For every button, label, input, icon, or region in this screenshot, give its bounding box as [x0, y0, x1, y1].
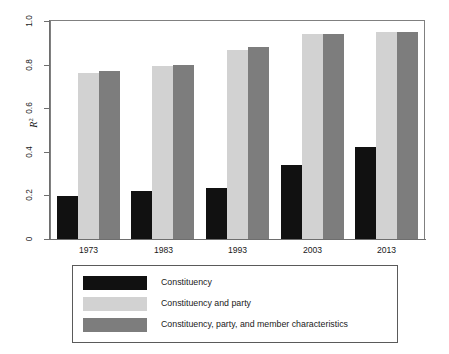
y-axis-tick — [44, 21, 49, 22]
legend-label: Constituency and party — [161, 298, 251, 308]
x-axis-tick-label: 1983 — [126, 245, 201, 255]
plot-area — [51, 21, 424, 239]
y-axis-tick-label: 0.8 — [25, 52, 35, 78]
bar — [355, 147, 376, 239]
y-axis-tick — [44, 65, 49, 66]
legend-label: Constituency — [161, 277, 212, 287]
legend-swatch — [83, 297, 147, 311]
bar — [152, 66, 173, 239]
y-axis-title-exponent: 2 — [27, 118, 34, 121]
y-axis-tick-label: 0.4 — [25, 139, 35, 165]
chart-figure: 00.20.40.60.81.0 R2 19731983199320032013… — [0, 0, 449, 354]
legend-label: Constituency, party, and member characte… — [161, 319, 348, 329]
x-axis-tick-label: 2003 — [275, 245, 350, 255]
bar — [78, 73, 99, 239]
bar — [248, 47, 269, 239]
bar — [376, 32, 397, 239]
bar — [173, 65, 194, 239]
bar — [131, 191, 152, 239]
x-axis-tick-label: 2013 — [349, 245, 424, 255]
bar — [57, 196, 78, 239]
y-axis-tick — [44, 195, 49, 196]
y-axis-line — [49, 20, 50, 240]
bar — [302, 34, 323, 239]
bar — [281, 165, 302, 239]
x-axis-tick-label: 1993 — [200, 245, 275, 255]
legend-item: Constituency, party, and member characte… — [83, 316, 393, 334]
y-axis-tick — [44, 108, 49, 109]
x-axis-tick-label: 1973 — [51, 245, 126, 255]
y-axis-tick-label: 0 — [25, 226, 35, 252]
legend-swatch — [83, 276, 147, 290]
bar — [206, 188, 227, 239]
y-axis-tick-label: 1.0 — [25, 8, 35, 34]
legend-item: Constituency and party — [83, 295, 393, 313]
bar — [323, 34, 344, 239]
bar — [227, 50, 248, 239]
y-axis-title: R2 — [20, 108, 42, 138]
legend-swatch — [83, 318, 147, 332]
legend-item: Constituency — [83, 274, 393, 292]
y-axis-tick-label: 0.2 — [25, 182, 35, 208]
chart-legend: ConstituencyConstituency and partyConsti… — [72, 265, 398, 343]
bar — [99, 71, 120, 239]
x-axis-line — [49, 239, 426, 240]
bar — [397, 32, 418, 239]
y-axis-tick — [44, 152, 49, 153]
